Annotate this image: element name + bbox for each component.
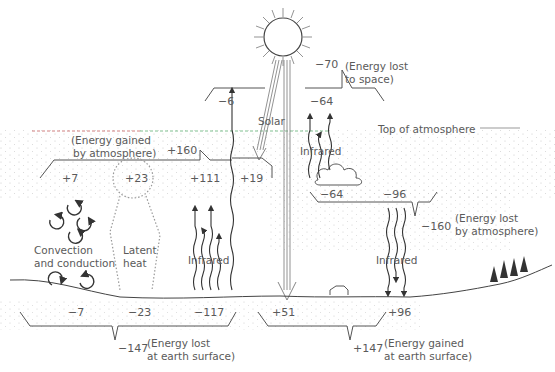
surface-gain-total-value: +147 bbox=[353, 343, 383, 355]
conduction-label: and conduction bbox=[34, 257, 115, 269]
space-caption-line2: to space) bbox=[345, 73, 394, 86]
trees-icon bbox=[490, 256, 528, 282]
surface-loss-caption-line2: at earth surface) bbox=[147, 350, 235, 363]
surface-loss-latent-value: −23 bbox=[128, 307, 151, 319]
surface-gain-infrared-value: +96 bbox=[388, 307, 411, 319]
top-of-atmosphere-label: Top of atmosphere bbox=[378, 123, 476, 135]
surface-gain-caption-line1: (Energy gained bbox=[384, 337, 464, 350]
house-icon bbox=[330, 286, 348, 295]
convection-label: Convection bbox=[34, 244, 93, 256]
atmosphere-gain-caption-line2: by atmosphere) bbox=[73, 147, 156, 160]
surface-gain-solar-value: +51 bbox=[272, 307, 295, 319]
surface-loss-caption-line1: (Energy lost bbox=[147, 337, 210, 350]
infrared-left-label: Infrared bbox=[188, 254, 229, 266]
atmosphere-loss-to-surface-value: −96 bbox=[383, 189, 406, 201]
sun-icon bbox=[254, 8, 312, 66]
atmosphere-gain-solar-value: +19 bbox=[240, 173, 263, 185]
atmosphere-gain-total-value: +160 bbox=[167, 145, 197, 157]
atmosphere-loss-to-space-value: −64 bbox=[320, 189, 343, 201]
heat-label: heat bbox=[123, 257, 147, 269]
space-total-value: −70 bbox=[315, 59, 338, 71]
atmosphere-gain-infrared-value: +111 bbox=[190, 173, 220, 185]
space-reflected-solar-value: −6 bbox=[218, 96, 234, 108]
atmosphere-loss-caption-line2: by atmosphere) bbox=[455, 225, 538, 238]
ground-line bbox=[10, 265, 552, 298]
solar-label: Solar bbox=[258, 115, 285, 127]
surface-loss-total-value: −147 bbox=[118, 343, 148, 355]
atmosphere-gain-convection-value: +7 bbox=[62, 173, 78, 185]
surface-loss-infrared-value: −117 bbox=[194, 307, 224, 319]
surface-loss-convection-value: −7 bbox=[68, 307, 84, 319]
infrared-right-label: Infrared bbox=[376, 254, 417, 266]
surface-gain-caption-line2: at earth surface) bbox=[384, 350, 472, 363]
space-caption-line1: (Energy lost bbox=[345, 60, 408, 73]
atmosphere-gain-caption-line1: (Energy gained bbox=[71, 134, 151, 147]
latent-label: Latent bbox=[123, 244, 157, 256]
atmosphere-loss-total-value: −160 bbox=[421, 221, 451, 233]
infrared-upper-label: Infrared bbox=[300, 145, 341, 157]
space-infrared-value: −64 bbox=[310, 96, 333, 108]
atmosphere-loss-caption-line1: (Energy lost bbox=[455, 212, 518, 225]
atmosphere-gain-latent-value: +23 bbox=[125, 173, 148, 185]
